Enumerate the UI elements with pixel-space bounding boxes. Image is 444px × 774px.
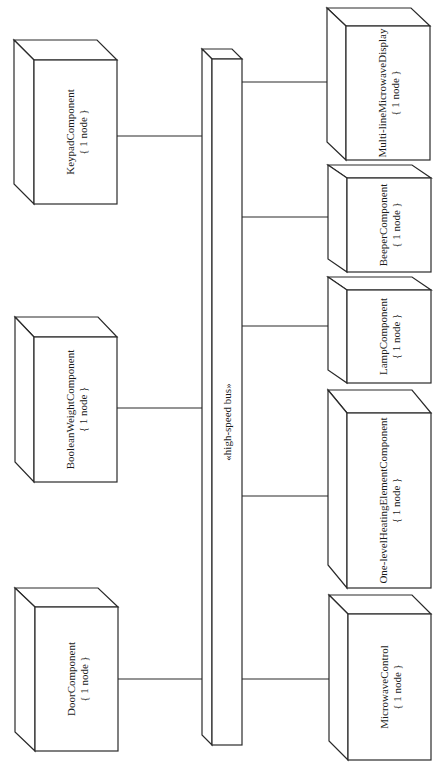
deployment-diagram: «high-speed bus» KeypadComponent{ 1 node… xyxy=(0,0,444,774)
node-multiline-display-front-face xyxy=(346,26,430,160)
node-microwave-control-front-face xyxy=(348,614,431,760)
node-lamp[interactable]: LampComponent{ 1 node } xyxy=(328,277,431,383)
node-microwave-control-side-face xyxy=(329,595,348,760)
bus-label: «high-speed bus» xyxy=(221,383,233,460)
node-door-side-face xyxy=(15,588,35,751)
node-door[interactable]: DoorComponent{ 1 node } xyxy=(15,588,118,751)
node-keypad-front-face xyxy=(34,60,117,204)
node-heating-element-side-face xyxy=(328,390,347,588)
node-lamp-side-face xyxy=(328,277,347,383)
node-boolean-weight-front-face xyxy=(34,337,117,482)
node-boolean-weight[interactable]: BooleanWeightComponent{ 1 node } xyxy=(15,317,117,482)
node-keypad[interactable]: KeypadComponent{ 1 node } xyxy=(14,40,117,204)
node-microwave-control[interactable]: MicrowaveControl{ 1 node } xyxy=(329,595,431,760)
node-multiline-display-side-face xyxy=(327,8,346,160)
node-beeper-side-face xyxy=(328,165,347,272)
bus-side-face xyxy=(202,49,212,745)
node-keypad-side-face xyxy=(14,40,34,204)
node-heating-element-front-face xyxy=(347,413,431,588)
node-lamp-front-face xyxy=(347,290,431,383)
node-beeper-front-face xyxy=(347,178,431,272)
node-door-front-face xyxy=(35,607,118,751)
node-multiline-display[interactable]: Multi-lineMicrowaveDisplay{ 1 node } xyxy=(327,8,430,160)
high-speed-bus-node[interactable]: «high-speed bus» xyxy=(202,49,242,745)
node-boolean-weight-side-face xyxy=(15,317,34,482)
node-beeper[interactable]: BeeperComponent{ 1 node } xyxy=(328,165,431,272)
node-heating-element[interactable]: One-levelHeatingElementComponent{ 1 node… xyxy=(328,390,431,588)
